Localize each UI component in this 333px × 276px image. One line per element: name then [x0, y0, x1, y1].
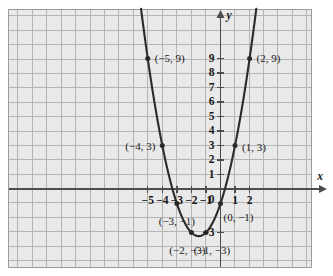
x-tick-label--5: −5: [142, 195, 154, 207]
x-tick-label--3: −3: [171, 195, 183, 207]
y-tick-label-5: 5: [209, 111, 215, 123]
y-tick-label-3: 3: [209, 140, 215, 152]
y-tick-label-8: 8: [209, 67, 215, 79]
x-tick-label-2: 2: [247, 195, 253, 207]
y-tick-label-2: 2: [209, 154, 215, 166]
point-label--5-9: (−5, 9): [155, 52, 185, 63]
graph-figure: 987654321−30−5−4−3−2−112yx(−5, 9)(−4, 3)…: [0, 0, 333, 276]
y-tick-label-4: 4: [209, 125, 215, 137]
y-axis-name: y: [227, 10, 232, 22]
point-label-0--1: (0, −1): [224, 211, 254, 222]
y-tick-label-9: 9: [209, 53, 215, 65]
x-tick-label--1: −1: [200, 195, 212, 207]
point-label--3--1: (−3, −1): [159, 215, 195, 226]
x-tick-label-1: 1: [232, 195, 238, 207]
point-label--1--3: (−1, −3): [194, 244, 230, 255]
point-label--4-3: (−4, 3): [125, 140, 155, 151]
x-tick-label--4: −4: [156, 195, 168, 207]
y-tick-label-1: 1: [209, 169, 215, 181]
x-tick-label--2: −2: [185, 195, 197, 207]
y-tick-label-6: 6: [209, 96, 215, 108]
point-label-1-3: (1, 3): [242, 141, 266, 152]
point-label-2-9: (2, 9): [257, 52, 281, 63]
y-tick-label--3: −3: [202, 227, 214, 239]
x-axis-name: x: [317, 171, 323, 183]
graph-drawing-layer: [0, 0, 333, 276]
y-tick-label-7: 7: [209, 82, 215, 94]
